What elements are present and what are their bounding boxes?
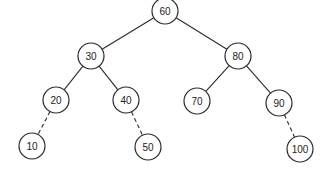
tree-node-70: 70 xyxy=(184,88,210,114)
tree-node-50: 50 xyxy=(135,134,161,160)
tree-node-40: 40 xyxy=(113,87,139,113)
edge-40-50 xyxy=(132,112,143,135)
node-label: 40 xyxy=(120,95,132,106)
tree-node-100: 100 xyxy=(287,136,313,162)
edges-layer xyxy=(38,18,295,137)
edge-80-90 xyxy=(247,66,271,93)
edge-80-70 xyxy=(206,66,229,92)
tree-diagram: 603080204070901050100 xyxy=(0,0,324,172)
tree-node-80: 80 xyxy=(225,43,251,69)
edge-60-80 xyxy=(176,18,227,49)
node-label: 20 xyxy=(50,95,62,106)
tree-node-10: 10 xyxy=(19,133,45,159)
edge-30-20 xyxy=(64,66,83,90)
edge-20-10 xyxy=(38,112,50,135)
node-label: 30 xyxy=(85,51,97,62)
node-label: 60 xyxy=(159,6,171,17)
node-label: 50 xyxy=(142,142,154,153)
node-label: 100 xyxy=(292,144,309,155)
node-label: 80 xyxy=(232,51,244,62)
edge-90-100 xyxy=(284,115,294,137)
node-label: 90 xyxy=(273,98,285,109)
tree-node-90: 90 xyxy=(266,90,292,116)
tree-node-30: 30 xyxy=(78,43,104,69)
node-label: 10 xyxy=(26,141,38,152)
nodes-layer: 603080204070901050100 xyxy=(19,0,313,162)
tree-node-60: 60 xyxy=(152,0,178,24)
tree-node-20: 20 xyxy=(43,87,69,113)
edge-30-40 xyxy=(99,66,118,90)
edge-60-30 xyxy=(102,18,154,49)
node-label: 70 xyxy=(191,96,203,107)
